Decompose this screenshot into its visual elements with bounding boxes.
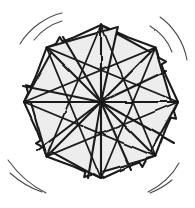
pinwheel-figure-canvas: Spinning eight-point pinwheel star Hand-…	[0, 0, 195, 208]
pinwheel-svg	[0, 0, 195, 208]
